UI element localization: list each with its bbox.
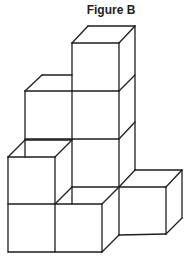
cube-edge <box>102 235 119 252</box>
cube-edge <box>72 26 88 43</box>
cube-edge <box>119 75 135 91</box>
cube-edge <box>55 187 72 204</box>
cube-edge <box>102 187 119 204</box>
cube-stack-figure <box>0 0 195 264</box>
cube-edge <box>166 170 182 187</box>
cube-edge <box>55 140 72 157</box>
cube-edge <box>119 234 166 235</box>
cube-edge <box>8 140 25 157</box>
cube-edge <box>166 218 182 234</box>
cube-edge <box>119 170 135 187</box>
cube-edge <box>119 26 135 43</box>
cube-edge <box>25 75 42 91</box>
cube-edge <box>119 122 135 139</box>
